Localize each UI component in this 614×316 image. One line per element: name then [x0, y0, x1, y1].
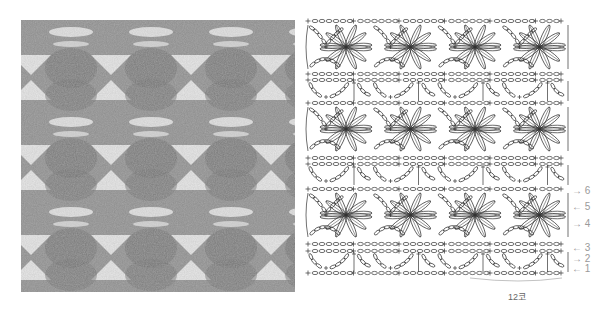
row-label-5: ← 5: [572, 202, 590, 212]
stitch-repeat-label: 12코: [508, 290, 526, 303]
row-label-6: → 6: [572, 186, 590, 196]
row-label-1: ← 1: [572, 264, 590, 274]
row-label-4: → 4: [572, 219, 590, 229]
crochet-chart: [0, 0, 614, 316]
row-label-3: ← 3: [572, 243, 590, 253]
